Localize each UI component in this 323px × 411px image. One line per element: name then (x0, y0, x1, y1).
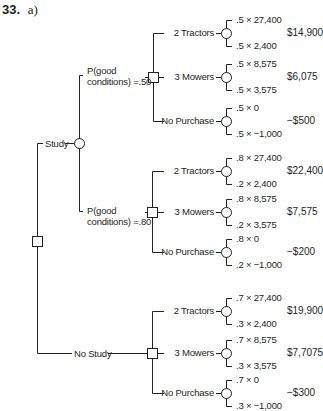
chance-node (222, 73, 232, 83)
outcome-value: .8 × 8,575 (236, 193, 277, 204)
outcome-value: .7 × 27,400 (236, 292, 282, 303)
expected-value: $6,075 (287, 71, 318, 82)
outcome-value: .5 × −1,000 (236, 128, 282, 139)
prob-label-2b: conditions) =.80 (87, 216, 151, 227)
outcome-value: .5 × 0 (236, 102, 259, 113)
branch-label-study: Study (45, 138, 68, 149)
outcome-value: .7 × 0 (236, 374, 259, 385)
option-label-3-mowers: 3 Mowers (174, 347, 214, 358)
option-label-3-mowers: 3 Mowers (174, 206, 214, 217)
option-label-2-tractors: 2 Tractors (174, 165, 214, 176)
outcome-value: .3 × −1,000 (236, 400, 282, 411)
option-label-no-purchase: No Purchase (161, 246, 214, 257)
prob-label-1a: P(good (87, 65, 116, 76)
option-label-2-tractors: 2 Tractors (174, 27, 214, 38)
expected-value: $7,575 (287, 206, 318, 217)
branch-label-no-study: No Study (74, 348, 111, 359)
outcome-value: .7 × 8,575 (236, 334, 277, 345)
root-decision-node (33, 237, 43, 247)
outcome-value: .8 × 0 (236, 233, 259, 244)
chance-node (222, 389, 232, 399)
prob-label-2a: P(good (87, 205, 116, 216)
outcome-value: .5 × 27,400 (236, 14, 282, 25)
expected-value: $7,7075 (287, 347, 323, 358)
chance-node (222, 248, 232, 258)
outcome-value: .2 × −1,000 (236, 259, 282, 270)
chance-node (222, 307, 232, 317)
outcome-value: .5 × 8,575 (236, 58, 277, 69)
expected-value: $14,900 (287, 27, 323, 38)
prob-label-1b: conditions) =.50 (87, 76, 151, 87)
outcome-value: .2 × 3,575 (236, 219, 277, 230)
chance-node (222, 349, 232, 359)
outcome-value: .3 × 3,575 (236, 360, 277, 371)
chance-node (222, 29, 232, 39)
expected-value: −$500 (287, 115, 315, 126)
study-chance-node (75, 139, 85, 149)
expected-value: $19,900 (287, 305, 323, 316)
decision-node-3 (148, 349, 158, 359)
option-label-2-tractors: 2 Tractors (174, 305, 214, 316)
option-label-no-purchase: No Purchase (161, 387, 214, 398)
outcome-value: .5 × 3,575 (236, 84, 277, 95)
chance-node (222, 208, 232, 218)
chance-node (222, 167, 232, 177)
option-label-no-purchase: No Purchase (161, 115, 214, 126)
expected-value: $22,400 (287, 165, 323, 176)
outcome-value: .5 × 2,400 (236, 40, 277, 51)
expected-value: −$300 (287, 387, 315, 398)
outcome-value: .3 × 2,400 (236, 318, 277, 329)
chance-node (222, 117, 232, 127)
option-label-3-mowers: 3 Mowers (174, 71, 214, 82)
outcome-value: .8 × 27,400 (236, 152, 282, 163)
expected-value: −$200 (287, 246, 315, 257)
outcome-value: .2 × 2,400 (236, 178, 277, 189)
